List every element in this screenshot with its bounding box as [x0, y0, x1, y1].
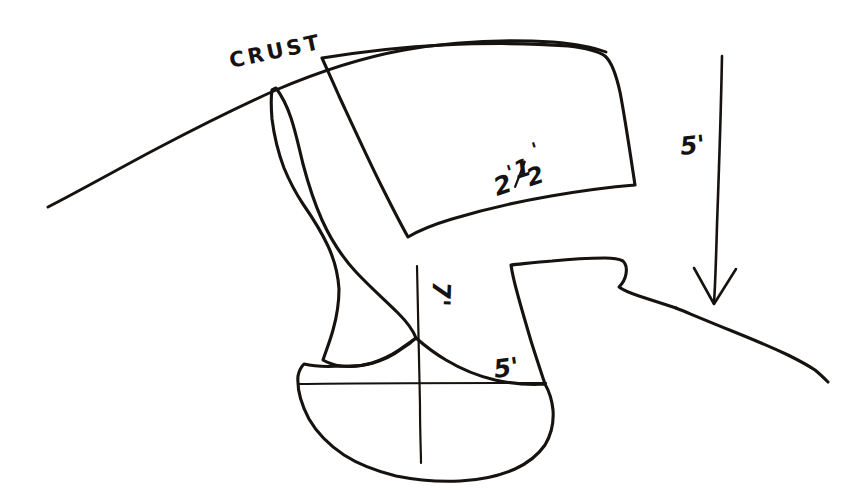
chamber-horizontal-line	[298, 383, 546, 384]
neck-height-label: 7'	[426, 281, 456, 307]
cross-section-drawing: CRUST 2 ' 1 2 ' 5' 5' 7'	[0, 0, 868, 499]
upper-block	[322, 44, 635, 237]
depth-arrow-label: 5'	[679, 130, 707, 161]
sketch-page: CRUST 2 ' 1 2 ' 5' 5' 7'	[0, 0, 868, 499]
right-slope	[676, 308, 828, 382]
block-width-fraction-prime: '	[529, 138, 541, 161]
chamber-width-label: 5'	[492, 352, 521, 384]
crust-label: CRUST	[227, 30, 324, 73]
neck-channel	[271, 88, 416, 366]
block-width-denominator: 2	[523, 160, 548, 192]
right-wall	[511, 258, 676, 384]
depth-arrow	[694, 56, 736, 304]
depth-arrow-shaft	[714, 56, 722, 303]
chamber-vertical-line	[417, 266, 421, 463]
block-width-label: 2 ' 1 2 '	[483, 138, 550, 203]
